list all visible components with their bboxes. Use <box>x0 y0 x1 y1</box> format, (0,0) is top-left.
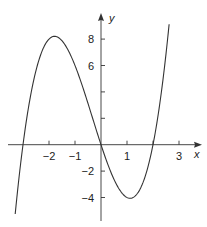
axes <box>8 13 202 221</box>
y-axis-label: y <box>108 12 116 24</box>
chart: x y −2−11386−2−4 <box>0 0 207 227</box>
tick-labels: −2−11386−2−4 <box>43 33 182 203</box>
x-tick-label: 1 <box>124 150 130 162</box>
x-tick-label: −2 <box>43 150 56 162</box>
cubic-graph: x y −2−11386−2−4 <box>0 0 207 227</box>
x-tick-label: −1 <box>69 150 82 162</box>
y-arrow-icon <box>98 13 104 21</box>
y-tick-label: 6 <box>88 60 94 72</box>
y-tick-label: 8 <box>88 33 94 45</box>
curve <box>15 24 169 214</box>
x-axis-label: x <box>193 148 200 160</box>
x-arrow-icon <box>194 142 202 148</box>
y-tick-label: −2 <box>81 165 94 177</box>
x-tick-label: 3 <box>176 150 182 162</box>
y-tick-label: −4 <box>81 192 94 204</box>
